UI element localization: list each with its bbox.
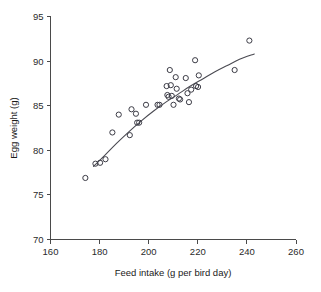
x-tick-label: 260 — [288, 246, 304, 257]
y-tick-label: 95 — [33, 11, 44, 22]
data-point — [129, 107, 134, 112]
x-tick-label: 160 — [43, 246, 59, 257]
data-point — [171, 102, 176, 107]
axis-tick-marks — [47, 17, 297, 244]
x-axis-tick-labels: 160180200220240260 — [43, 246, 304, 257]
scatter-plot-figure: 707580859095 160180200220240260 Feed int… — [0, 0, 321, 292]
x-tick-label: 200 — [141, 246, 157, 257]
x-tick-label: 220 — [190, 246, 206, 257]
data-point — [133, 111, 138, 116]
data-point — [143, 102, 148, 107]
y-axis-title: Egg weight (g) — [8, 97, 19, 158]
data-point — [110, 130, 115, 135]
data-point-markers — [83, 38, 252, 181]
data-point — [173, 75, 178, 80]
data-point — [196, 73, 201, 78]
x-axis-title: Feed intake (g per bird day) — [115, 267, 232, 278]
fitted-trend-curve — [93, 54, 254, 166]
y-tick-label: 90 — [33, 56, 44, 67]
data-point — [174, 86, 179, 91]
y-tick-label: 85 — [33, 100, 44, 111]
data-point — [167, 67, 172, 72]
data-point — [193, 58, 198, 63]
y-tick-label: 70 — [33, 234, 44, 245]
data-point — [83, 175, 88, 180]
data-point — [103, 157, 108, 162]
egg-weight-vs-feed-intake-chart: 707580859095 160180200220240260 Feed int… — [0, 0, 321, 292]
data-point — [127, 133, 132, 138]
data-point — [183, 75, 188, 80]
y-tick-label: 75 — [33, 189, 44, 200]
y-tick-label: 80 — [33, 145, 44, 156]
data-point — [116, 112, 121, 117]
y-axis-tick-labels: 707580859095 — [33, 11, 44, 245]
data-point — [189, 87, 194, 92]
data-point — [186, 100, 191, 105]
data-point — [247, 38, 252, 43]
x-tick-label: 180 — [92, 246, 108, 257]
data-point — [232, 67, 237, 72]
x-tick-label: 240 — [239, 246, 255, 257]
